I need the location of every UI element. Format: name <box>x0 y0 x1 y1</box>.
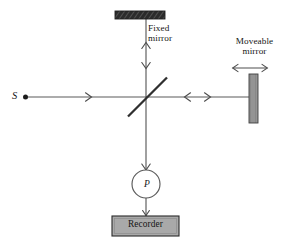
michelson-interferometer-figure: Fixed mirror Moveable mirror S P Recorde… <box>0 0 289 248</box>
moveable-mirror-label: Moveable mirror <box>226 36 283 57</box>
moveable-mirror-motion-arrow <box>233 64 268 71</box>
fixed-mirror-label: Fixed mirror <box>148 23 192 44</box>
moveable-mirror-label-line1: Moveable <box>236 36 274 46</box>
fixed-mirror <box>115 11 165 19</box>
source-label: S <box>12 90 17 102</box>
detector-label: P <box>138 179 156 190</box>
source-point <box>23 95 28 100</box>
fixed-mirror-label-line1: Fixed <box>148 23 169 33</box>
moveable-mirror[interactable] <box>249 74 258 123</box>
recorder-label: Recorder <box>112 219 179 230</box>
moveable-mirror-label-line2: mirror <box>242 46 266 56</box>
fixed-mirror-label-line2: mirror <box>148 33 172 43</box>
